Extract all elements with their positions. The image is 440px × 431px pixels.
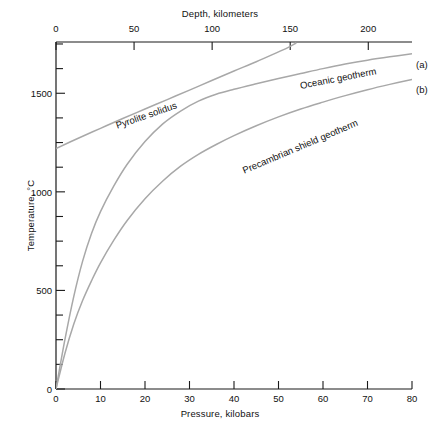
pressure-tick-label: 20 <box>140 393 151 404</box>
pressure-tick-label: 70 <box>362 393 373 404</box>
pressure-tick-label: 40 <box>229 393 240 404</box>
temperature-tick-label: 1500 <box>8 88 52 99</box>
pressure-axis-title: Pressure, kilobars <box>0 408 440 419</box>
curve-pyrolite-solidus <box>56 43 296 148</box>
pressure-tick-label: 60 <box>318 393 329 404</box>
pressure-tick-label: 30 <box>184 393 195 404</box>
series-key-a: (a) <box>416 59 428 70</box>
depth-tick-label: 100 <box>204 23 220 34</box>
curve-oceanic-geotherm <box>56 54 412 389</box>
temperature-tick-label: 0 <box>8 384 52 395</box>
axis-ticks <box>56 42 412 389</box>
depth-tick-label: 50 <box>129 23 140 34</box>
depth-tick-label: 0 <box>53 23 58 34</box>
temperature-tick-label: 500 <box>8 285 52 296</box>
series-key-b: (b) <box>416 84 428 95</box>
depth-axis-title: Depth, kilometers <box>0 8 440 19</box>
depth-tick-label: 200 <box>360 23 376 34</box>
pressure-tick-label: 50 <box>273 393 284 404</box>
pressure-tick-label: 0 <box>53 393 58 404</box>
depth-tick-label: 150 <box>282 23 298 34</box>
pressure-tick-label: 80 <box>407 393 418 404</box>
temperature-axis-title: Temperature, °C <box>25 136 36 296</box>
geotherm-chart-figure: Depth, kilometers Pressure, kilobars Tem… <box>0 0 440 431</box>
temperature-tick-label: 1000 <box>8 186 52 197</box>
data-curves <box>56 43 412 389</box>
pressure-tick-label: 10 <box>95 393 106 404</box>
axes-spines <box>56 42 412 389</box>
